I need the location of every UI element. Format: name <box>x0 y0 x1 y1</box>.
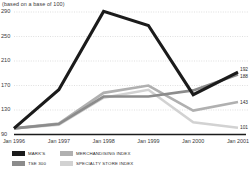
end-label-mark-s: 192 <box>240 67 248 72</box>
legend-item-tse300: TSE 300 <box>12 161 46 166</box>
y-axis-tick-290: 290 <box>1 8 10 14</box>
x-axis-tick-jan-2001: Jan 2001 <box>218 138 252 144</box>
legend-label-specialty-store-index: SPECIALTY STORE INDEX <box>76 161 133 166</box>
legend-swatch-marks <box>12 151 25 156</box>
x-axis-tick-jan-1996: Jan 1996 <box>0 138 34 144</box>
legend-item-specialty-store-index: SPECIALTY STORE INDEX <box>60 161 133 166</box>
legend-item-merchandising-index: MERCHANDISING INDEX <box>60 151 130 156</box>
end-label-tse-300: 188 <box>240 74 248 79</box>
y-axis-tick-250: 250 <box>1 33 10 39</box>
legend-item-marks: MARK'S <box>12 151 45 156</box>
y-axis-tick-170: 170 <box>1 82 10 88</box>
x-axis-tick-jan-1999: Jan 1999 <box>128 138 168 144</box>
x-axis-tick-jan-2000: Jan 2000 <box>173 138 213 144</box>
y-axis-tick-90: 90 <box>1 131 7 137</box>
x-axis-tick-jan-1997: Jan 1997 <box>39 138 79 144</box>
line-chart: (based on a base of 100) 901301702102502… <box>0 0 252 172</box>
legend-swatch-tse300 <box>12 161 25 166</box>
end-label-merchandising-index: 143 <box>240 100 248 105</box>
series-line-mark-s <box>14 11 238 128</box>
legend-swatch-specialty-store-index <box>60 161 73 166</box>
end-label-specialty-store-index: 101 <box>240 125 248 130</box>
y-axis-tick-210: 210 <box>1 57 10 63</box>
chart-legend: MARK'S TSE 300 MERCHANDISING INDEX SPECI… <box>2 150 250 172</box>
series-line-merchandising-index <box>14 86 238 129</box>
legend-label-tse300: TSE 300 <box>28 161 46 166</box>
legend-label-merchandising-index: MERCHANDISING INDEX <box>76 151 130 156</box>
chart-canvas <box>0 0 252 172</box>
series-lines <box>14 11 238 128</box>
legend-label-marks: MARK'S <box>28 151 45 156</box>
y-axis-tick-130: 130 <box>1 106 10 112</box>
x-axis-tick-jan-1998: Jan 1998 <box>84 138 124 144</box>
legend-swatch-merchandising-index <box>60 151 73 156</box>
